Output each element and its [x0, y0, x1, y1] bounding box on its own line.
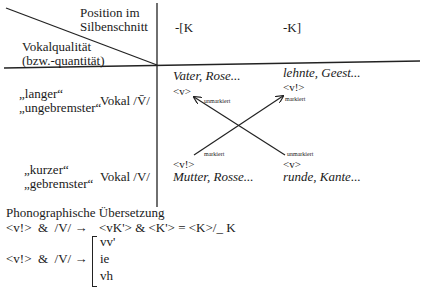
row-label-line: „kurzer“ [24, 163, 93, 177]
row-label-line: „gebremster“ [24, 177, 93, 191]
row-label-short: „kurzer“ „gebremster“ [24, 163, 93, 191]
row-label-line: „langer“ [19, 87, 101, 101]
rule1-left: <v!> & /V/ → [6, 221, 87, 235]
grapheme-long-open: <v> [173, 85, 191, 97]
marking-long-open: unmarkiert [204, 98, 230, 105]
option-vh: vh [100, 269, 115, 286]
grapheme-long-closed: <v!> [283, 81, 305, 93]
corner-line-3: Vokalqualität [22, 40, 105, 54]
option-ie: ie [100, 252, 115, 269]
vowel-long: Vokal /V̄/ [100, 94, 150, 108]
vowel-short: Vokal /V/ [100, 170, 150, 184]
column-header-open: -[K [175, 21, 193, 35]
corner-line-4: (bzw.-quantität) [22, 54, 105, 68]
examples-long-closed: lehnte, Geest... [283, 66, 361, 80]
marking-long-closed: markiert [285, 96, 305, 103]
rule2-options: vv' ie vh [100, 235, 115, 286]
marking-short-closed: unmarkiert [287, 151, 313, 158]
column-header-closed: -K] [283, 21, 301, 35]
corner-line-1: Position im [80, 6, 148, 20]
examples-long-open: Vater, Rose... [173, 69, 241, 83]
row-label-line: „ungebremster“ [19, 101, 101, 115]
rule1-right: <vK'> & <K'> = <K>/_ K [99, 221, 236, 235]
corner-label-position: Position im Silbenschnitt [80, 6, 148, 34]
examples-short-open: Mutter, Rosse... [173, 170, 254, 184]
row-label-long: „langer“ „ungebremster“ [19, 87, 101, 115]
corner-line-2: Silbenschnitt [80, 20, 148, 34]
translation-title: Phonographische Übersetzung [6, 206, 165, 220]
rule2-left: <v!> & /V/ → [6, 252, 87, 266]
marking-short-open: markiert [204, 151, 224, 158]
corner-label-vokal: Vokalqualität (bzw.-quantität) [22, 40, 105, 68]
option-vv: vv' [100, 235, 115, 252]
examples-short-closed: runde, Kante... [283, 170, 361, 184]
options-bracket [92, 236, 97, 287]
